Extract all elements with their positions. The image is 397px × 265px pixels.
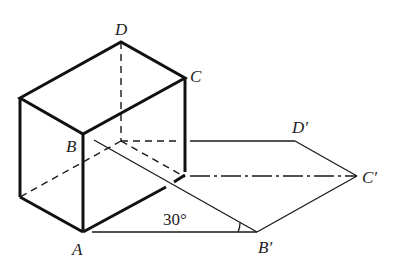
box-bottom-right-edge-tail [174, 175, 185, 182]
shadow-outline [92, 140, 357, 232]
label-C: C [190, 67, 202, 86]
shadow-edge-D-prime-C-prime [295, 141, 357, 176]
label-D: D [114, 20, 128, 39]
label-C-prime: C′ [362, 168, 377, 187]
box-bottom-right-edge [83, 187, 166, 232]
visible-box-edges [20, 42, 185, 232]
box-bottom-left-edge [20, 197, 83, 232]
hidden-back-right-edge [121, 141, 185, 177]
label-A: A [71, 240, 83, 259]
label-B: B [66, 137, 77, 156]
angle-label: 30° [163, 210, 187, 229]
label-D-prime: D′ [291, 118, 308, 137]
shadow-edge-C-prime-B-prime [257, 176, 357, 232]
label-B-prime: B′ [258, 238, 272, 257]
box-top-face [20, 42, 185, 134]
angle-arc [238, 223, 240, 232]
box-shadow-diagram: D C B A D′ C′ B′ 30° [0, 0, 397, 265]
